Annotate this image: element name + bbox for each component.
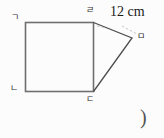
vertex-label-digeut: ㄷ [86, 94, 94, 104]
vertex-label-giyeok: ㄱ [11, 12, 19, 22]
vertex-label-rieul: ㄹ [86, 5, 94, 15]
square-outline [26, 23, 94, 92]
measurement-leader-right [122, 26, 137, 34]
vertex-label-nieun: ㄴ [10, 83, 18, 93]
answer-parenthesis: ) [140, 104, 147, 130]
measurement-label: 12 cm [110, 3, 145, 21]
triangle-outline [94, 23, 133, 92]
geometry-figure: ㄱ ㄴ ㄷ ㄹ ㅁ 12 cm ) [0, 0, 164, 138]
vertex-label-mieum: ㅁ [137, 31, 145, 41]
